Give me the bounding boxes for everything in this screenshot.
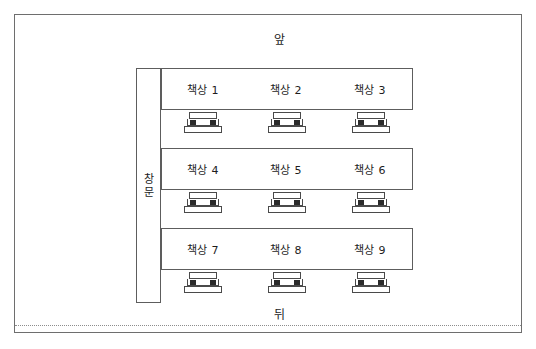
chair-peg-left xyxy=(190,280,196,285)
desk-label: 책상 6 xyxy=(354,161,386,177)
seat-group[interactable]: 책상 5 xyxy=(245,148,329,224)
seat-group[interactable]: 책상 6 xyxy=(329,148,413,224)
chair-back xyxy=(273,272,301,279)
seat-group[interactable]: 책상 8 xyxy=(245,228,329,304)
chair-peg-left xyxy=(274,120,280,125)
desk-label: 책상 1 xyxy=(187,81,219,97)
desk[interactable]: 책상 3 xyxy=(328,68,413,110)
desk[interactable]: 책상 4 xyxy=(161,148,245,190)
chair-icon xyxy=(268,112,306,134)
window-label-char-2: 문 xyxy=(137,186,160,199)
desk[interactable]: 책상 8 xyxy=(244,228,329,270)
desk[interactable]: 책상 6 xyxy=(328,148,413,190)
chair-peg-left xyxy=(190,200,196,205)
desk-label: 책상 9 xyxy=(354,241,386,257)
desk-label: 책상 7 xyxy=(187,241,219,257)
chair-peg-right xyxy=(210,280,216,285)
dotted-divider xyxy=(15,325,521,326)
chair-peg-left xyxy=(274,200,280,205)
chair-peg-right xyxy=(378,120,384,125)
desk-row: 책상 4 책상 5 xyxy=(161,148,413,224)
chair-peg-right xyxy=(378,280,384,285)
desk-label: 책상 8 xyxy=(270,241,302,257)
chair-peg-right xyxy=(294,200,300,205)
chair-peg-right xyxy=(294,120,300,125)
chair-icon xyxy=(268,272,306,294)
chair-peg-left xyxy=(190,120,196,125)
desk-row: 책상 1 책상 2 xyxy=(161,68,413,144)
chair-back xyxy=(273,112,301,119)
chair-base xyxy=(268,126,306,133)
seat-group[interactable]: 책상 7 xyxy=(161,228,245,304)
chair-back xyxy=(357,112,385,119)
chair-peg-right xyxy=(378,200,384,205)
chair-base xyxy=(184,206,222,213)
chair-peg-left xyxy=(358,120,364,125)
seat-group[interactable]: 책상 2 xyxy=(245,68,329,144)
window-label: 창 문 xyxy=(137,173,160,199)
chair-back xyxy=(357,192,385,199)
desk[interactable]: 책상 9 xyxy=(328,228,413,270)
desk-label: 책상 4 xyxy=(187,161,219,177)
chair-back xyxy=(189,112,217,119)
chair-icon xyxy=(184,112,222,134)
desk-label: 책상 5 xyxy=(270,161,302,177)
desk[interactable]: 책상 1 xyxy=(161,68,245,110)
seat-group[interactable]: 책상 1 xyxy=(161,68,245,144)
chair-icon xyxy=(184,272,222,294)
desk-label: 책상 3 xyxy=(354,81,386,97)
front-direction-label: 앞 xyxy=(250,33,310,47)
desk-row: 책상 7 책상 8 xyxy=(161,228,413,304)
chair-back xyxy=(273,192,301,199)
window-object: 창 문 xyxy=(136,68,161,303)
chair-base xyxy=(352,126,390,133)
chair-peg-right xyxy=(294,280,300,285)
back-direction-label: 뒤 xyxy=(250,308,310,322)
chair-base xyxy=(352,286,390,293)
desk[interactable]: 책상 7 xyxy=(161,228,245,270)
desk-grid: 책상 1 책상 2 xyxy=(161,68,413,303)
seat-group[interactable]: 책상 9 xyxy=(329,228,413,304)
desk[interactable]: 책상 2 xyxy=(244,68,329,110)
chair-peg-right xyxy=(210,200,216,205)
chair-peg-left xyxy=(274,280,280,285)
desk[interactable]: 책상 5 xyxy=(244,148,329,190)
desk-label: 책상 2 xyxy=(270,81,302,97)
chair-peg-left xyxy=(358,280,364,285)
chair-icon xyxy=(184,192,222,214)
chair-icon xyxy=(352,192,390,214)
window-label-char-1: 창 xyxy=(137,173,160,186)
chair-base xyxy=(352,206,390,213)
chair-base xyxy=(268,206,306,213)
chair-peg-left xyxy=(358,200,364,205)
chair-back xyxy=(357,272,385,279)
chair-peg-right xyxy=(210,120,216,125)
chair-base xyxy=(268,286,306,293)
chair-icon xyxy=(352,272,390,294)
chair-back xyxy=(189,272,217,279)
chair-base xyxy=(184,126,222,133)
seat-group[interactable]: 책상 4 xyxy=(161,148,245,224)
chair-base xyxy=(184,286,222,293)
chair-back xyxy=(189,192,217,199)
chair-icon xyxy=(268,192,306,214)
chair-icon xyxy=(352,112,390,134)
classroom-seating-diagram: 앞 창 문 책상 1 책상 2 xyxy=(0,0,536,349)
seat-group[interactable]: 책상 3 xyxy=(329,68,413,144)
